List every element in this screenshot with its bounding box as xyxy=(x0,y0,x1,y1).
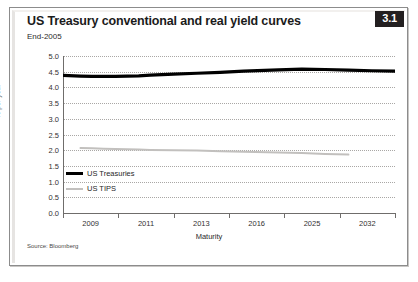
x-axis-title: Maturity xyxy=(0,232,418,241)
y-axis-tick-label: 3.5 xyxy=(35,99,59,108)
legend-label-us-treasuries: US Treasuries xyxy=(87,169,135,178)
y-axis-tick-label: 2.5 xyxy=(35,130,59,139)
x-axis-tick-mark xyxy=(229,213,230,218)
y-axis-tick-label: 0.0 xyxy=(35,209,59,218)
x-axis-tick-label: 2016 xyxy=(248,219,265,228)
x-axis-tick-mark xyxy=(63,213,64,218)
plot-container: 0.00.51.01.52.02.53.03.54.04.55.0 % per … xyxy=(0,0,418,282)
y-axis-tick-label: 1.0 xyxy=(35,177,59,186)
series-line-us-treasuries xyxy=(63,69,395,76)
y-axis-tick-label: 4.0 xyxy=(35,83,59,92)
x-axis-tick-label: 2011 xyxy=(138,219,154,228)
legend-swatch-treasuries-icon xyxy=(66,172,83,175)
y-axis-tick-label: 3.0 xyxy=(35,114,59,123)
x-axis-tick-mark xyxy=(118,213,119,218)
x-axis-tick-mark xyxy=(340,213,341,218)
y-axis-tick-label: 0.5 xyxy=(35,193,59,202)
x-axis-tick-mark xyxy=(174,213,175,218)
y-axis-tick-labels: 0.00.51.01.52.02.53.03.54.04.55.0 xyxy=(33,56,59,213)
x-axis-tick-label: 2009 xyxy=(82,219,99,228)
x-axis-tick-label: 2025 xyxy=(304,219,321,228)
y-axis-tick-label: 2.0 xyxy=(35,146,59,155)
legend-item-us-tips: US TIPS xyxy=(66,181,135,196)
legend-label-us-tips: US TIPS xyxy=(87,184,116,193)
x-axis-tick-mark xyxy=(395,213,396,218)
legend-item-us-treasuries: US Treasuries xyxy=(66,166,135,181)
y-axis-title: % per year xyxy=(0,84,1,118)
y-axis-tick-label: 4.5 xyxy=(35,67,59,76)
y-axis-tick-label: 1.5 xyxy=(35,161,59,170)
legend-swatch-tips-icon xyxy=(66,188,83,190)
x-axis-tick-label: 2013 xyxy=(193,219,210,228)
x-axis-tick-label: 2032 xyxy=(359,219,376,228)
source-note: Source: Bloomberg xyxy=(27,243,78,249)
y-axis-tick-label: 5.0 xyxy=(35,52,59,61)
x-axis-tick-mark xyxy=(284,213,285,218)
chart-legend: US Treasuries US TIPS xyxy=(66,166,135,196)
figure-page: 3.1 US Treasury conventional and real yi… xyxy=(0,0,418,282)
series-line-us-tips xyxy=(80,148,348,155)
